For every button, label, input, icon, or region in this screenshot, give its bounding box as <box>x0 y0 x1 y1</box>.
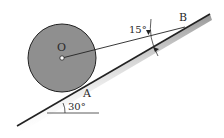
sphere-incline-diagram <box>0 0 224 138</box>
label-incline-angle: 30° <box>68 102 86 112</box>
label-O: O <box>57 42 66 53</box>
label-A: A <box>83 88 91 99</box>
label-B: B <box>179 12 187 23</box>
center-pin <box>60 56 64 60</box>
label-cord-angle: 15° <box>129 25 147 35</box>
